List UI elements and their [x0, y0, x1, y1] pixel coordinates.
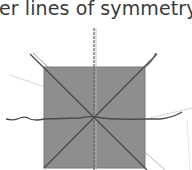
square-symmetry-figure — [0, 0, 192, 170]
faint-guide-line — [187, 120, 190, 170]
